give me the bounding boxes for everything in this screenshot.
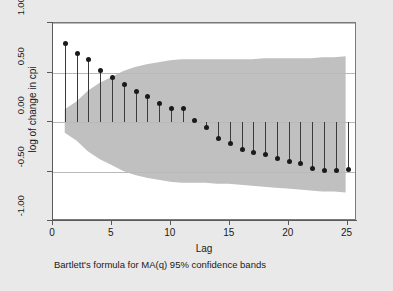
data-point-marker [192, 118, 197, 123]
data-point-marker [310, 166, 315, 171]
x-tick [288, 220, 289, 225]
data-point-marker [275, 156, 280, 161]
stem-line [112, 77, 113, 123]
stem-line [348, 122, 349, 169]
data-point-marker [157, 101, 162, 106]
data-point-marker [287, 159, 292, 164]
data-point-marker [122, 82, 127, 87]
x-tick [229, 220, 230, 225]
x-tick [347, 220, 348, 225]
y-tick-label: 1.00 [15, 0, 26, 44]
y-tick [47, 171, 52, 172]
data-point-marker [334, 168, 339, 173]
stem-line [77, 53, 78, 122]
data-point-marker [228, 141, 233, 146]
data-point-marker [98, 68, 103, 73]
y-tick-label: -0.50 [15, 146, 26, 192]
x-tick-label: 5 [96, 227, 126, 238]
data-point-marker [181, 106, 186, 111]
data-point-marker [204, 125, 209, 130]
stem-line [136, 91, 137, 122]
x-tick [111, 220, 112, 225]
stem-line [324, 122, 325, 170]
stem-line [312, 122, 313, 168]
x-tick-label: 25 [332, 227, 362, 238]
stem-line [147, 96, 148, 122]
stem-line [242, 122, 243, 149]
stem-line [253, 122, 254, 152]
data-point-marker [75, 51, 80, 56]
y-tick-label: -1.00 [15, 196, 26, 242]
stem-line [65, 43, 66, 122]
plot-canvas [52, 22, 356, 220]
data-point-marker [346, 167, 351, 172]
x-tick [52, 220, 53, 225]
stem-line [88, 59, 89, 122]
x-axis-line [52, 220, 357, 221]
data-point-marker [63, 41, 68, 46]
data-point-marker [251, 150, 256, 155]
data-point-marker [263, 152, 268, 157]
data-point-marker [134, 89, 139, 94]
data-point-marker [240, 147, 245, 152]
data-point-marker [298, 161, 303, 166]
stem-line [336, 122, 337, 170]
x-tick-label: 10 [155, 227, 185, 238]
y-axis-line [52, 22, 53, 221]
data-point-marker [322, 168, 327, 173]
acf-chart-figure: 1.000.500.00-0.50-1.00 0510152025 log of… [0, 0, 393, 291]
stem-line [289, 122, 290, 161]
stem-line [265, 122, 266, 154]
stem-line [124, 84, 125, 122]
stem-line [300, 122, 301, 163]
y-tick [47, 22, 52, 23]
x-tick [170, 220, 171, 225]
chart-note: Bartlett's formula for MA(q) 95% confide… [54, 259, 266, 270]
x-axis-title: Lag [52, 243, 356, 254]
x-tick-label: 20 [273, 227, 303, 238]
y-tick-label: 0.00 [15, 97, 26, 143]
data-point-marker [86, 57, 91, 62]
y-tick [47, 121, 52, 122]
data-point-marker [145, 94, 150, 99]
y-axis-title: log of change in cpi [27, 35, 38, 185]
y-tick [47, 72, 52, 73]
autocorrelation-series [53, 23, 355, 219]
y-tick-label: 0.50 [15, 47, 26, 93]
x-tick-label: 15 [214, 227, 244, 238]
data-point-marker [110, 75, 115, 80]
x-tick-label: 0 [37, 227, 67, 238]
stem-line [230, 122, 231, 143]
data-point-marker [169, 106, 174, 111]
stem-line [277, 122, 278, 158]
stem-line [100, 70, 101, 123]
data-point-marker [216, 136, 221, 141]
